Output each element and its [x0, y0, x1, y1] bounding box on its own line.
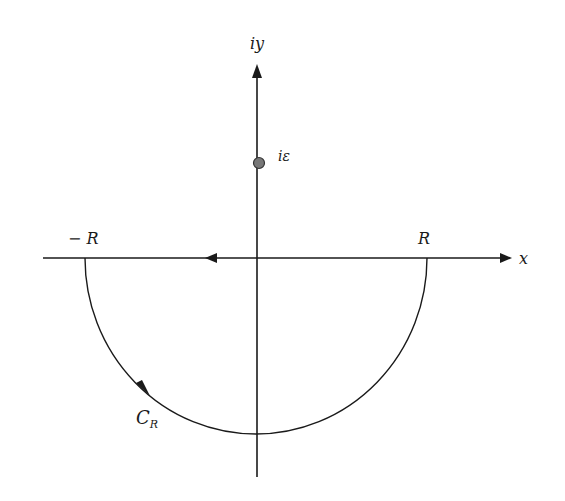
x-axis-label: x — [519, 249, 528, 268]
contour-diagram — [0, 0, 565, 501]
contour-label-sub: R — [150, 418, 158, 431]
pole-point — [254, 158, 265, 169]
y-axis-arrow-icon — [252, 64, 262, 78]
contour-label-main: C — [136, 407, 150, 428]
x-axis-arrow-icon — [500, 253, 512, 263]
pole-label: iε — [278, 148, 290, 164]
contour-label: CR — [136, 407, 158, 431]
real-axis-direction-arrow-icon — [205, 253, 217, 263]
y-axis-label: iy — [250, 34, 264, 53]
contour-direction-arrow-icon — [136, 380, 150, 396]
r-label: R — [418, 229, 430, 248]
minus-r-label: − R — [68, 229, 99, 248]
